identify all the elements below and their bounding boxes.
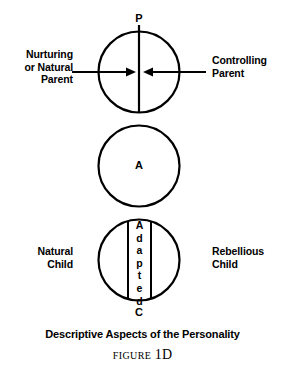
figure-title: Descriptive Aspects of the Personality bbox=[0, 328, 285, 341]
adapted-band-label: A d a p t e d bbox=[129, 219, 150, 307]
natural-child-label: Natural Child bbox=[0, 245, 73, 270]
adult-state-letter: A bbox=[129, 160, 149, 171]
figure-number: 1D bbox=[155, 347, 173, 362]
adapted-letter: a bbox=[129, 244, 150, 257]
rebellious-child-label: Rebellious Child bbox=[212, 245, 285, 270]
figure-caption-block: Descriptive Aspects of the Personality F… bbox=[0, 328, 285, 363]
child-state-letter: C bbox=[129, 307, 149, 318]
adapted-letter: d bbox=[129, 295, 150, 308]
adapted-letter: d bbox=[129, 232, 150, 245]
figure-number-line: FIGURE 1D bbox=[0, 347, 285, 363]
right-arrow bbox=[143, 68, 206, 77]
figure-diagram: P A C A d a p t e d Nurturing or Natural… bbox=[0, 0, 285, 378]
left-arrow bbox=[72, 68, 136, 77]
adapted-letter: A bbox=[129, 219, 150, 232]
parent-state-letter: P bbox=[129, 13, 149, 24]
adapted-letter: p bbox=[129, 257, 150, 270]
controlling-parent-label: Controlling Parent bbox=[212, 54, 285, 79]
nurturing-parent-label: Nurturing or Natural Parent bbox=[0, 48, 73, 86]
adapted-letter: e bbox=[129, 282, 150, 295]
adapted-letter: t bbox=[129, 269, 150, 282]
figure-word: FIGURE bbox=[113, 350, 152, 361]
